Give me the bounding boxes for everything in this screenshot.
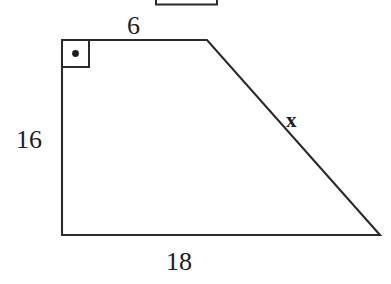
trapezoid-svg (0, 0, 391, 284)
bottom-side-length-label: 18 (166, 249, 192, 275)
right-angle-dot-icon (72, 50, 79, 57)
left-side-length-label: 16 (16, 127, 42, 153)
cropped-box-outline (156, 0, 217, 5)
trapezoid-outline (62, 40, 380, 235)
geometry-figure-canvas: 6 16 18 x (0, 0, 391, 284)
cropped-box-top-edge (156, 0, 217, 5)
top-side-length-label: 6 (127, 13, 140, 39)
slant-side-unknown-label: x (286, 110, 297, 131)
